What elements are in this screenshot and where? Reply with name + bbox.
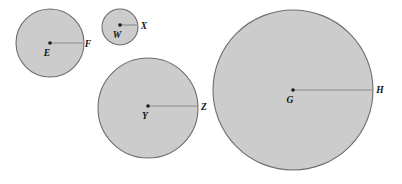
- label-Z: Z: [200, 102, 207, 112]
- circle-group-Y: Y Z: [98, 58, 207, 158]
- geometry-diagram: E F W X Y Z G H: [0, 0, 402, 184]
- label-H: H: [375, 85, 384, 95]
- label-G: G: [287, 95, 294, 105]
- circle-group-W: W X: [102, 9, 148, 45]
- circles-canvas: E F W X Y Z G H: [0, 0, 402, 184]
- label-X: X: [140, 21, 148, 31]
- circle-group-E: E F: [16, 9, 92, 77]
- label-W: W: [113, 30, 122, 40]
- circle-group-G: G H: [213, 10, 384, 170]
- center-point-E: [48, 41, 52, 45]
- center-point-Y: [146, 104, 150, 108]
- center-point-W: [118, 23, 122, 27]
- center-point-G: [291, 88, 295, 92]
- circle-Y: [98, 58, 198, 158]
- label-F: F: [84, 39, 92, 49]
- label-E: E: [43, 48, 50, 58]
